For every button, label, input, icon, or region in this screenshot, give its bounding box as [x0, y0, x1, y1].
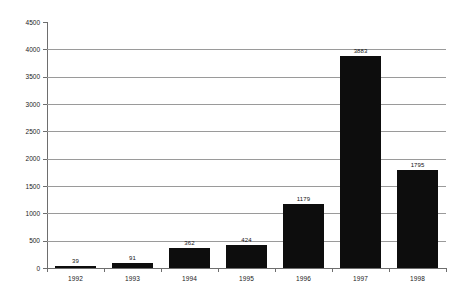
x-axis-tick: [218, 268, 219, 272]
x-axis-label: 1997: [341, 275, 381, 283]
y-axis-label: 0: [0, 265, 40, 272]
bar: [397, 170, 438, 268]
gridline: [47, 159, 446, 160]
x-axis-label: 1998: [398, 275, 438, 283]
x-axis-tick: [389, 268, 390, 272]
bar-value-label: 1179: [284, 196, 324, 203]
gridline: [47, 49, 446, 50]
gridline: [47, 213, 446, 214]
x-axis-label: 1996: [284, 275, 324, 283]
bar-value-label: 91: [113, 255, 153, 262]
y-axis-label: 3000: [0, 101, 40, 108]
bar-value-label: 39: [56, 258, 96, 265]
bar: [112, 263, 153, 268]
gridline: [47, 186, 446, 187]
gridline: [47, 131, 446, 132]
bar-value-label: 3883: [341, 48, 381, 55]
bar: [283, 204, 324, 268]
x-axis-label: 1992: [56, 275, 96, 283]
gridline: [47, 104, 446, 105]
bar: [169, 248, 210, 268]
x-axis-tick: [161, 268, 162, 272]
gridline: [47, 77, 446, 78]
y-axis-label: 3500: [0, 73, 40, 80]
bar: [55, 266, 96, 268]
x-axis-tick: [332, 268, 333, 272]
bar: [340, 56, 381, 268]
bar-value-label: 424: [227, 237, 267, 244]
x-axis-label: 1993: [113, 275, 153, 283]
x-axis-tick: [275, 268, 276, 272]
bar-value-label: 362: [170, 240, 210, 247]
gridline: [47, 268, 446, 269]
bar-chart: 050010001500200025003000350040004500 399…: [0, 0, 465, 295]
bar: [226, 245, 267, 268]
y-axis-label: 4000: [0, 46, 40, 53]
y-axis-label: 4500: [0, 19, 40, 26]
x-axis-label: 1995: [227, 275, 267, 283]
x-axis-tick: [104, 268, 105, 272]
x-axis-tick: [446, 268, 447, 272]
y-axis-label: 2500: [0, 128, 40, 135]
x-axis-tick: [47, 268, 48, 272]
bar-value-label: 1795: [398, 162, 438, 169]
plot-area: [47, 22, 446, 268]
x-axis-label: 1994: [170, 275, 210, 283]
y-axis-label: 1500: [0, 183, 40, 190]
y-axis-label: 2000: [0, 155, 40, 162]
y-axis-label: 500: [0, 237, 40, 244]
y-axis-label: 1000: [0, 210, 40, 217]
